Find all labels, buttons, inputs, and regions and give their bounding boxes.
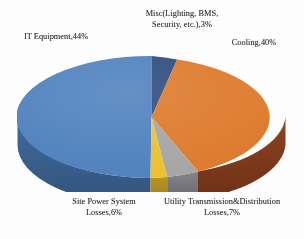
slice-label-site-power-line2: Losses,6%: [52, 208, 156, 219]
pie-graphic: [17, 42, 287, 192]
slice-label-utility-transmission: Utility Transmission&Distribution Losses…: [146, 197, 298, 218]
slice-label-cooling-text: Cooling,40%: [214, 38, 294, 49]
slice-label-cooling: Cooling,40%: [214, 38, 294, 49]
slice-label-misc-line2: Security, etc.),3%: [116, 20, 248, 31]
slice-label-it-equipment: IT Equipment,44%: [4, 32, 108, 43]
pie-chart-figure: Misc(Lighting, BMS, Security, etc.),3% C…: [0, 0, 304, 239]
side-wall-site-power: [151, 177, 168, 192]
slice-label-site-power: Site Power System Losses,6%: [52, 197, 156, 218]
slice-label-it-equipment-text: IT Equipment,44%: [4, 32, 108, 43]
slice-label-utility-line1: Utility Transmission&Distribution: [146, 197, 298, 208]
pie-top-sheen: [17, 56, 286, 178]
slice-label-misc-line1: Misc(Lighting, BMS,: [116, 9, 248, 20]
slice-label-site-power-line1: Site Power System: [52, 197, 156, 208]
slice-label-misc: Misc(Lighting, BMS, Security, etc.),3%: [116, 9, 248, 30]
pie-top-face: [17, 56, 286, 178]
slice-label-utility-line2: Losses,7%: [146, 208, 298, 219]
pie-svg: [17, 42, 287, 192]
